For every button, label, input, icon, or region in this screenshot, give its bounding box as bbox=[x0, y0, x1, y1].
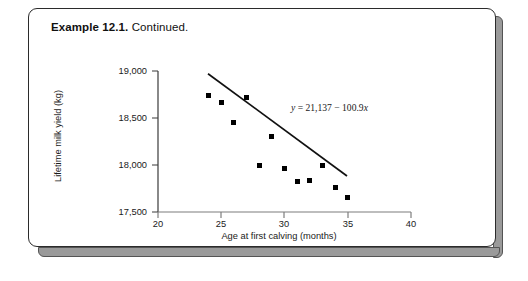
data-point bbox=[295, 179, 300, 184]
data-point bbox=[269, 134, 274, 139]
y-tick-label: 18,000 bbox=[101, 160, 147, 170]
regression-equation: y = 21,137 − 100.9x bbox=[291, 102, 368, 113]
data-point bbox=[333, 185, 338, 190]
scatter-plot: 19,000 18,500 18,000 17,500 20 25 30 35 … bbox=[29, 9, 496, 247]
x-tick-label: 20 bbox=[143, 219, 173, 229]
trend-line bbox=[208, 74, 347, 176]
x-tick-label: 25 bbox=[206, 219, 236, 229]
x-tick-label: 40 bbox=[396, 219, 426, 229]
equation-x-symbol: x bbox=[364, 102, 368, 113]
data-point bbox=[345, 195, 350, 200]
plot-axes bbox=[29, 9, 496, 247]
data-point bbox=[257, 163, 262, 168]
y-tick-label: 18,500 bbox=[101, 113, 147, 123]
y-tick-label: 17,500 bbox=[101, 207, 147, 217]
x-axis-title: Age at first calving (months) bbox=[159, 231, 399, 241]
data-point bbox=[219, 100, 224, 105]
x-tick-label: 35 bbox=[333, 219, 363, 229]
data-point bbox=[320, 163, 325, 168]
data-point bbox=[282, 166, 287, 171]
page-root: Example 12.1. Continued. bbox=[0, 0, 528, 281]
card-shadow-bottom bbox=[38, 247, 500, 257]
data-point bbox=[231, 120, 236, 125]
equation-body: = 21,137 − 100.9 bbox=[295, 102, 363, 113]
data-point bbox=[307, 178, 312, 183]
figure-card: Example 12.1. Continued. bbox=[28, 8, 496, 247]
x-tick-label: 30 bbox=[269, 219, 299, 229]
data-point bbox=[244, 95, 249, 100]
y-axis-title: Lifetime milk yield (kg) bbox=[53, 71, 63, 201]
y-tick-label: 19,000 bbox=[101, 66, 147, 76]
data-point bbox=[206, 93, 211, 98]
